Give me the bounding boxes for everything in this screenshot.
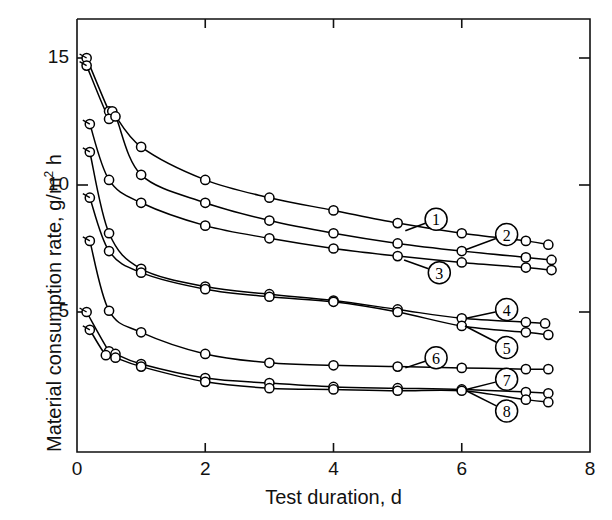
data-point-marker	[457, 246, 466, 255]
curve-label-badge: 5	[496, 337, 518, 359]
data-point-marker	[393, 252, 402, 261]
data-point-marker	[85, 193, 94, 202]
data-curves	[87, 58, 552, 402]
curve-line	[87, 312, 549, 393]
y-tick-label: 15	[29, 46, 69, 68]
data-point-marker	[111, 112, 120, 121]
y-tick-label: 5	[29, 300, 69, 322]
data-point-marker	[137, 198, 146, 207]
data-point-marker	[201, 377, 210, 386]
x-axis-label: Test duration, d	[77, 486, 590, 509]
data-point-marker	[393, 386, 402, 395]
data-point-marker	[265, 234, 274, 243]
x-tick-label: 4	[314, 458, 354, 480]
data-point-marker	[201, 349, 210, 358]
curve-label-badge: 2	[496, 224, 518, 246]
data-point-marker	[541, 319, 550, 328]
data-point-marker	[544, 365, 553, 374]
data-point-marker	[265, 384, 274, 393]
data-point-marker	[393, 239, 402, 248]
data-point-marker	[329, 206, 338, 215]
data-point-marker	[111, 353, 120, 362]
curve-line	[90, 152, 545, 323]
data-point-marker	[201, 285, 210, 294]
curve-line	[90, 241, 548, 369]
data-point-marker	[137, 142, 146, 151]
curve-label-badge: 7	[496, 368, 518, 390]
curve-label-badge: 3	[428, 262, 450, 284]
x-tick-label: 8	[570, 458, 610, 480]
data-point-marker	[85, 236, 94, 245]
data-point-marker	[521, 365, 530, 374]
data-point-marker	[544, 330, 553, 339]
data-point-marker	[137, 328, 146, 337]
curve-label-leader	[404, 260, 428, 269]
data-point-marker	[137, 362, 146, 371]
x-tick-label: 0	[57, 458, 97, 480]
data-point-marker	[104, 306, 113, 315]
data-point-marker	[521, 395, 530, 404]
data-point-marker	[544, 398, 553, 407]
data-point-marker	[393, 307, 402, 316]
curve-line	[90, 330, 548, 402]
curve-label-leader	[466, 312, 495, 318]
data-point-marker	[82, 61, 91, 70]
curve-label-text: 5	[503, 340, 511, 357]
curve-label-badge: 6	[425, 347, 447, 369]
curve-line	[90, 198, 548, 335]
data-point-marker	[544, 389, 553, 398]
data-point-marker	[521, 236, 530, 245]
data-point-marker	[265, 358, 274, 367]
curve-label-badge: 8	[496, 400, 518, 422]
y-axis-label-post: h	[43, 154, 65, 171]
curve-line	[87, 66, 552, 260]
curve-label-badge: 1	[425, 208, 447, 230]
data-point-marker	[201, 198, 210, 207]
data-point-marker	[329, 229, 338, 238]
curve-label-text: 6	[432, 350, 440, 367]
curve-line	[87, 58, 549, 245]
data-point-marker	[104, 246, 113, 255]
data-point-marker	[101, 351, 110, 360]
data-point-marker	[329, 297, 338, 306]
data-point-marker	[544, 240, 553, 249]
data-point-marker	[85, 325, 94, 334]
y-axis-label: Material consumption rate, g/m2 h	[34, 12, 64, 452]
curve-label-text: 7	[503, 372, 511, 389]
data-point-marker	[547, 265, 556, 274]
data-point-marker	[329, 385, 338, 394]
data-point-marker	[82, 307, 91, 316]
data-point-marker	[457, 258, 466, 267]
chart-canvas: 12345678	[0, 0, 612, 520]
data-point-marker	[521, 318, 530, 327]
y-tick-label: 10	[29, 173, 69, 195]
curve-label-leader	[466, 239, 496, 250]
x-tick-label: 2	[185, 458, 225, 480]
data-point-marker	[547, 255, 556, 264]
data-point-marker	[201, 175, 210, 184]
data-point-marker	[104, 229, 113, 238]
data-point-marker	[521, 263, 530, 272]
data-point-marker	[265, 193, 274, 202]
data-point-marker	[457, 229, 466, 238]
curve-label-text: 1	[432, 211, 440, 228]
data-point-marker	[521, 253, 530, 262]
curve-label-leader	[466, 382, 495, 389]
data-point-marker	[85, 147, 94, 156]
curve-label-text: 8	[503, 403, 511, 420]
data-point-marker	[201, 221, 210, 230]
curve-label-text: 3	[435, 265, 443, 282]
data-point-marker	[521, 328, 530, 337]
data-point-marker	[393, 362, 402, 371]
data-point-marker	[265, 292, 274, 301]
data-point-marker	[457, 386, 466, 395]
data-point-marker	[457, 363, 466, 372]
data-point-marker	[137, 170, 146, 179]
curve-label-badge: 4	[496, 298, 518, 320]
data-point-marker	[329, 361, 338, 370]
data-point-marker	[137, 268, 146, 277]
data-point-marker	[393, 219, 402, 228]
curve-label-text: 4	[503, 302, 511, 319]
data-point-marker	[104, 175, 113, 184]
data-point-marker	[265, 216, 274, 225]
